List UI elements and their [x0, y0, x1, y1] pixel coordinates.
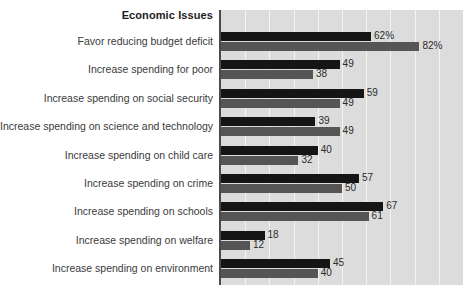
bar-value-label: 45 — [333, 258, 344, 267]
bar-series-gray — [221, 42, 419, 51]
bar-value-label: 18 — [268, 230, 279, 239]
bar-value-label: 32 — [301, 155, 312, 164]
bar-series-gray — [221, 241, 250, 250]
bar-series-gray — [221, 127, 340, 136]
bar-row: Increase spending on crime5750 — [0, 172, 470, 198]
bar-chart: Economic Issues Favor reducing budget de… — [0, 0, 470, 285]
category-label: Increase spending on schools — [0, 205, 213, 217]
bar-value-label: 39 — [318, 116, 329, 125]
bar-row: Increase spending on social security5949 — [0, 87, 470, 113]
bar-row: Increase spending on schools6761 — [0, 200, 470, 226]
category-label: Increase spending on crime — [0, 177, 213, 189]
bar-series-dark — [221, 259, 330, 268]
bar-row: Favor reducing budget deficit62%82% — [0, 30, 470, 56]
bar-row: Increase spending on environment4540 — [0, 257, 470, 283]
category-label: Increase spending for poor — [0, 63, 213, 75]
bar-series-gray — [221, 99, 340, 108]
bar-row: Increase spending on welfare1812 — [0, 229, 470, 255]
bar-value-label: 62% — [374, 31, 394, 40]
bar-series-dark — [221, 202, 383, 211]
bar-series-gray — [221, 269, 318, 278]
bar-value-label: 49 — [343, 126, 354, 135]
bar-row: Increase spending for poor4938 — [0, 58, 470, 84]
bar-value-label: 67 — [386, 201, 397, 210]
bar-series-gray — [221, 184, 342, 193]
bar-series-dark — [221, 117, 315, 126]
category-label: Favor reducing budget deficit — [0, 35, 213, 47]
bar-row: Increase spending on science and technol… — [0, 115, 470, 141]
bar-value-label: 40 — [321, 268, 332, 277]
bar-value-label: 82% — [422, 41, 442, 50]
bar-rows: Favor reducing budget deficit62%82%Incre… — [0, 0, 470, 285]
bar-value-label: 38 — [316, 69, 327, 78]
bar-series-dark — [221, 174, 359, 183]
bar-series-gray — [221, 156, 298, 165]
bar-series-gray — [221, 212, 369, 221]
category-label: Increase spending on environment — [0, 262, 213, 274]
bar-row: Increase spending on child care4032 — [0, 144, 470, 170]
category-label: Increase spending on welfare — [0, 234, 213, 246]
bar-value-label: 50 — [345, 183, 356, 192]
bar-value-label: 61 — [372, 211, 383, 220]
category-label: Increase spending on child care — [0, 149, 213, 161]
bar-value-label: 40 — [321, 145, 332, 154]
bar-series-dark — [221, 32, 371, 41]
category-label: Increase spending on science and technol… — [0, 120, 213, 132]
bar-value-label: 49 — [343, 98, 354, 107]
category-label: Increase spending on social security — [0, 92, 213, 104]
bar-value-label: 57 — [362, 173, 373, 182]
bar-series-gray — [221, 70, 313, 79]
bar-value-label: 49 — [343, 59, 354, 68]
bar-value-label: 59 — [367, 88, 378, 97]
bar-value-label: 12 — [253, 240, 264, 249]
